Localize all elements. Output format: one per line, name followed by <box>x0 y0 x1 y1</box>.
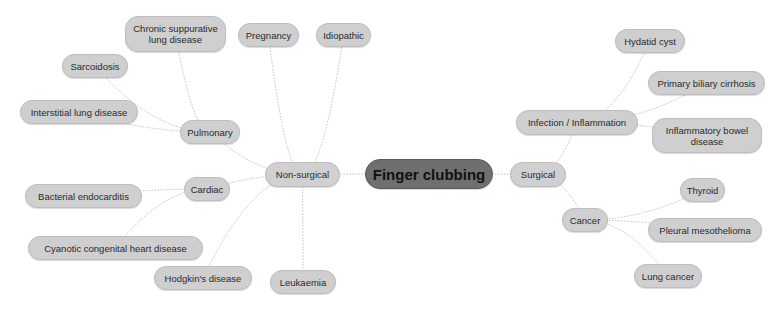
link-nonsurgical-leukaemia <box>303 175 304 283</box>
node-thyroid: Thyroid <box>680 178 725 202</box>
node-label: Finger clubbing <box>373 169 486 180</box>
node-label: Idiopathic <box>323 30 364 41</box>
node-cardiac: Cardiac <box>184 177 230 201</box>
node-surgical: Surgical <box>510 162 566 187</box>
node-label: Pregnancy <box>246 30 291 41</box>
node-label: Lung cancer <box>642 271 694 282</box>
node-pbc: Primary biliary cirrhosis <box>648 71 765 95</box>
node-pregnancy: Pregnancy <box>238 23 299 47</box>
node-bacterial: Bacterial endocarditis <box>25 184 142 208</box>
node-cancer: Cancer <box>562 208 608 232</box>
node-label: Cyanotic congenital heart disease <box>44 243 187 254</box>
node-lungcancer: Lung cancer <box>634 264 702 288</box>
link-nonsurgical-idiopathic <box>303 35 344 175</box>
mind-map: Finger clubbingNon-surgicalSurgicalPulmo… <box>0 0 784 315</box>
node-label: Non-surgical <box>276 169 329 180</box>
node-label: Chronic suppurative lung disease <box>132 23 219 45</box>
node-sarcoidosis: Sarcoidosis <box>62 54 128 78</box>
node-label: Bacterial endocarditis <box>38 191 129 202</box>
node-label: Thyroid <box>687 185 719 196</box>
node-label: Cardiac <box>191 184 224 195</box>
node-nonsurgical: Non-surgical <box>265 162 340 187</box>
node-label: Hydatid cyst <box>624 36 676 47</box>
link-nonsurgical-pregnancy <box>269 35 303 175</box>
node-ibd: Inflammatory bowel disease <box>652 118 762 153</box>
node-interstitial: Interstitial lung disease <box>20 100 138 124</box>
node-label: Primary biliary cirrhosis <box>657 78 755 89</box>
node-label: Cancer <box>570 215 601 226</box>
node-infection: Infection / Inflammation <box>516 110 638 135</box>
node-label: Pulmonary <box>187 127 232 138</box>
node-leukaemia: Leukaemia <box>270 270 336 294</box>
node-hodgkin: Hodgkin's disease <box>154 266 252 290</box>
node-pleural: Pleural mesothelioma <box>648 218 762 242</box>
node-label: Interstitial lung disease <box>31 107 128 118</box>
node-label: Pleural mesothelioma <box>659 225 750 236</box>
node-label: Sarcoidosis <box>70 61 119 72</box>
node-label: Surgical <box>521 169 555 180</box>
node-chronic: Chronic suppurative lung disease <box>125 16 226 52</box>
node-idiopathic: Idiopathic <box>316 23 371 47</box>
node-label: Leukaemia <box>280 277 326 288</box>
node-hydatid: Hydatid cyst <box>615 29 685 53</box>
node-cyanotic: Cyanotic congenital heart disease <box>28 236 203 260</box>
node-pulmonary: Pulmonary <box>180 120 240 144</box>
node-label: Infection / Inflammation <box>528 117 626 128</box>
node-label: Hodgkin's disease <box>165 273 242 284</box>
node-label: Inflammatory bowel disease <box>659 125 755 147</box>
node-root: Finger clubbing <box>365 159 493 189</box>
